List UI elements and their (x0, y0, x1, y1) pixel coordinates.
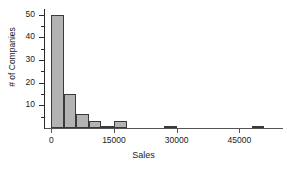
x-tick (239, 128, 240, 133)
histogram-bar (164, 126, 177, 128)
y-axis-label: # of Companies (7, 9, 17, 105)
x-tick-label: 15000 (92, 136, 136, 145)
x-tick (51, 128, 52, 133)
x-tick (177, 128, 178, 133)
plot-area (45, 10, 277, 128)
histogram-bar (51, 15, 64, 128)
histogram-bar (64, 94, 77, 128)
x-tick (114, 128, 115, 133)
histogram-bar (76, 114, 89, 128)
histogram-chart: 1020304050 0150003000045000 # of Compani… (0, 0, 287, 170)
x-tick-label: 0 (29, 136, 73, 145)
x-tick-label: 30000 (155, 136, 199, 145)
histogram-bar (114, 121, 127, 128)
x-axis-line (45, 128, 283, 129)
histogram-bar (89, 121, 102, 128)
histogram-bar (101, 126, 114, 128)
x-tick-label: 45000 (217, 136, 261, 145)
histogram-bar (252, 126, 265, 128)
x-axis-label: Sales (0, 150, 287, 160)
